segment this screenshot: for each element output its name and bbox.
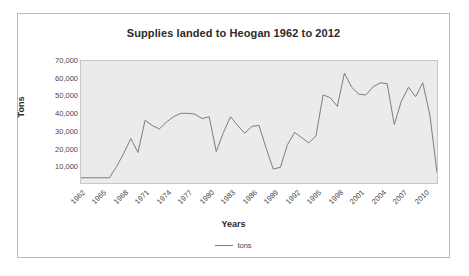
chart-legend: tons bbox=[18, 241, 449, 250]
x-axis-tick: 1977 bbox=[176, 188, 194, 206]
y-axis-tick: 60,000 bbox=[28, 73, 78, 82]
x-axis-tick: 2007 bbox=[391, 188, 409, 206]
x-axis-tick: 2004 bbox=[370, 188, 388, 206]
y-axis-title: Tons bbox=[16, 97, 26, 118]
chart-title: Supplies landed to Heogan 1962 to 2012 bbox=[18, 27, 449, 39]
y-axis-tick: 20,000 bbox=[28, 144, 78, 153]
legend-line-icon bbox=[215, 245, 233, 246]
x-axis-tick: 1983 bbox=[219, 188, 237, 206]
x-axis-tick: 1992 bbox=[284, 188, 302, 206]
y-axis-tick: 40,000 bbox=[28, 109, 78, 118]
y-axis-tick: 70,000 bbox=[28, 56, 78, 65]
legend-item-label: tons bbox=[237, 241, 251, 250]
x-axis-tick: 1974 bbox=[155, 188, 173, 206]
x-axis-tick: 1965 bbox=[90, 188, 108, 206]
line-series-tons bbox=[81, 61, 437, 183]
y-axis-tick: 50,000 bbox=[28, 91, 78, 100]
x-axis-tick: 1962 bbox=[69, 188, 87, 206]
x-axis-tick: 1989 bbox=[262, 188, 280, 206]
x-axis-tick: 1986 bbox=[241, 188, 259, 206]
x-axis-tick: 1968 bbox=[112, 188, 130, 206]
x-axis-tick-labels: 1962196519681971197419771980198319861989… bbox=[80, 186, 438, 216]
y-axis-tick-labels: 70,00060,00050,00040,00030,00020,00010,0… bbox=[28, 54, 78, 190]
chart-container: Supplies landed to Heogan 1962 to 2012 T… bbox=[17, 13, 450, 258]
x-axis-title: Years bbox=[18, 219, 449, 229]
x-axis-tick: 2001 bbox=[348, 188, 366, 206]
x-axis-tick: 2010 bbox=[413, 188, 431, 206]
y-axis-tick: 10,000 bbox=[28, 162, 78, 171]
x-axis-tick: 1971 bbox=[133, 188, 151, 206]
plot-area bbox=[80, 60, 438, 184]
y-axis-tick: 30,000 bbox=[28, 126, 78, 135]
x-axis-tick: 1980 bbox=[198, 188, 216, 206]
x-axis-tick: 1995 bbox=[305, 188, 323, 206]
x-axis-tick: 1998 bbox=[327, 188, 345, 206]
